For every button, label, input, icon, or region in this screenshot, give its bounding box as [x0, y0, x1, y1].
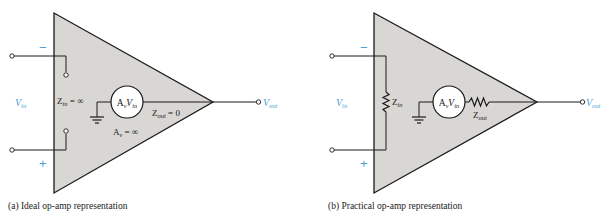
inverting-inner-terminal: [64, 73, 68, 77]
plus-sign: +: [360, 156, 368, 171]
vout-label: Vout: [263, 97, 278, 109]
vin-label: Vin: [15, 97, 26, 109]
practical-op-amp-diagram: − + Vin Zin AvVin Zout Vout: [330, 13, 601, 193]
vout-label: Vout: [586, 97, 601, 109]
caption-practical: (b) Practical op-amp representation: [328, 201, 462, 211]
inverting-input-terminal: [10, 54, 14, 58]
zin-label: Zin = ∞: [57, 96, 84, 107]
op-amp-diagrams: − + Vin Zin = ∞ AvVin Vout Zout = 0 Av =…: [0, 0, 603, 224]
gain-label: Av = ∞: [113, 127, 138, 138]
ideal-op-amp-diagram: − + Vin Zin = ∞ AvVin Vout Zout = 0 Av =…: [10, 13, 278, 193]
inverting-input-terminal: [330, 54, 334, 58]
zout-label: Zout = 0: [152, 108, 180, 119]
minus-sign: −: [39, 40, 47, 55]
minus-sign: −: [360, 40, 368, 55]
plus-sign: +: [39, 156, 47, 171]
output-terminal: [256, 100, 260, 104]
noninverting-input-terminal: [330, 148, 334, 152]
output-terminal: [580, 100, 584, 104]
vin-label: Vin: [336, 97, 347, 109]
noninverting-inner-terminal: [64, 129, 68, 133]
caption-ideal: (a) Ideal op-amp representation: [8, 201, 127, 211]
noninverting-input-terminal: [10, 148, 14, 152]
